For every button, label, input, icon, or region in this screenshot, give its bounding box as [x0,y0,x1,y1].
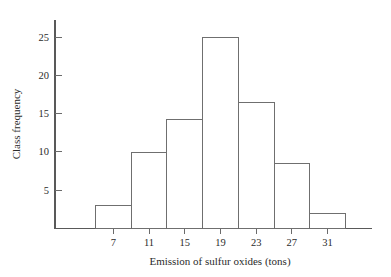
bar-bin-4 [203,37,239,228]
x-tick-label-27: 27 [287,237,298,248]
bar-bin-7 [310,213,346,228]
bar-bin-6 [274,164,310,229]
x-tick-label-23: 23 [251,237,262,248]
x-axis-center-ticks [113,229,327,235]
y-tick-label-5: 5 [44,185,49,196]
x-axis-title: Emission of sulfur oxides (tons) [149,255,290,268]
y-tick-label-20: 20 [39,70,50,81]
histogram-svg: 25 20 15 10 5 Class frequency [0,0,391,277]
y-axis-ticks [55,37,62,190]
y-tick-label-10: 10 [39,146,50,157]
bar-bin-3 [167,120,203,229]
y-tick-label-25: 25 [39,32,50,43]
y-tick-label-15: 15 [39,108,50,119]
x-tick-label-15: 15 [180,237,191,248]
bar-bin-2 [131,152,167,229]
histogram-figure: 25 20 15 10 5 Class frequency [0,0,391,277]
x-tick-label-11: 11 [144,237,154,248]
bar-bin-5 [238,102,274,228]
x-tick-label-7: 7 [111,237,116,248]
x-tick-label-19: 19 [215,237,226,248]
histogram-bars [96,37,346,228]
y-axis-title: Class frequency [10,88,22,159]
bar-bin-1 [96,206,132,229]
x-tick-label-31: 31 [322,237,333,248]
